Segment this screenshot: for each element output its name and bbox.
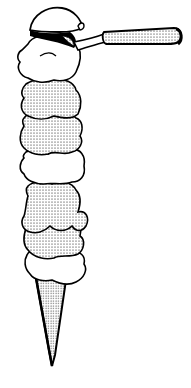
scoop-5 [22, 182, 88, 233]
ice-cream-illustration [0, 0, 191, 388]
scoop-3 [20, 112, 82, 155]
cone [36, 278, 66, 366]
scoop-2 [21, 79, 80, 119]
